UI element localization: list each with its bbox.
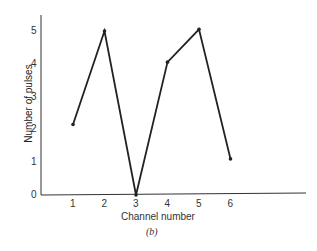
y-tick-label: 1 [31,156,37,167]
data-line [73,29,231,195]
x-tick-label: 5 [196,198,202,209]
axes [41,15,306,195]
data-points [71,28,232,197]
x-tick-label: 6 [228,198,234,209]
y-axis-label: Number of pulses [23,64,34,144]
y-tick-label: 0 [31,189,37,200]
figure-caption: (b) [146,226,158,237]
x-axis-label: Channel number [121,211,195,222]
y-tick-label: 5 [31,25,37,36]
x-tick-label: 3 [133,198,139,209]
x-tick-label: 2 [102,198,108,209]
x-tick-label: 4 [165,198,171,209]
x-tick-label: 1 [70,198,76,209]
